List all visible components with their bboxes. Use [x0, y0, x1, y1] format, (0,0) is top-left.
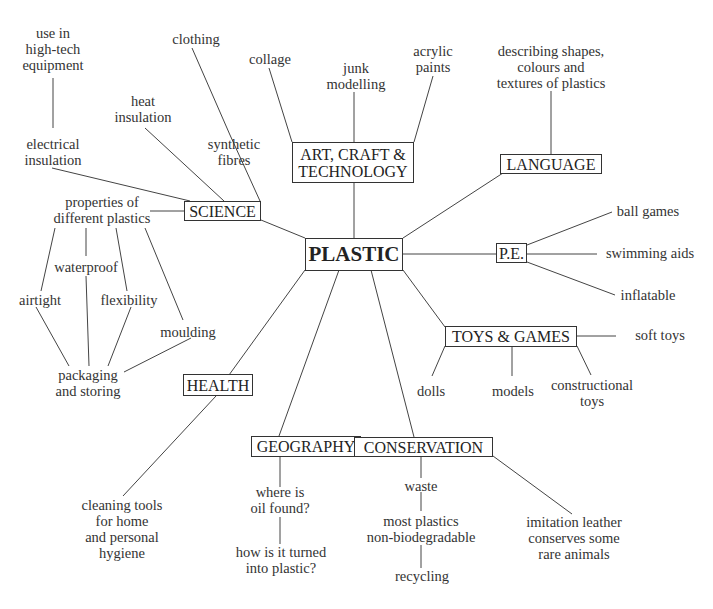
- leaf-line: properties of: [54, 194, 151, 210]
- leaf-line: constructional: [551, 377, 633, 393]
- topic-pe: P.E.: [496, 243, 527, 263]
- topic-geography: GEOGRAPHY: [251, 436, 361, 457]
- topic-health: HEALTH: [183, 374, 253, 396]
- leaf-line: colours and: [497, 59, 606, 75]
- leaf-soft-toys: soft toys: [635, 327, 685, 343]
- leaf-line: hygiene: [82, 545, 163, 561]
- leaf-line: and personal: [82, 529, 163, 545]
- leaf-line: collage: [249, 51, 291, 67]
- central-node-plastic: PLASTIC: [305, 238, 403, 271]
- leaf-line: flexibility: [100, 292, 157, 308]
- leaf-line: inflatable: [621, 287, 676, 303]
- topic-toys-games: TOYS & GAMES: [445, 326, 577, 347]
- leaf-line: for home: [82, 513, 163, 529]
- leaf-line: use in: [22, 25, 83, 41]
- leaf-line: oil found?: [250, 500, 309, 516]
- leaf-line: junk: [327, 60, 386, 76]
- leaf-line: moulding: [160, 324, 216, 340]
- topic-conservation: CONSERVATION: [354, 437, 493, 457]
- topic-label: P.E.: [499, 245, 524, 262]
- leaf-line: imitation leather: [526, 514, 621, 530]
- leaf-line: clothing: [172, 31, 220, 47]
- leaf-line: dolls: [417, 383, 445, 399]
- leaf-line: rare animals: [526, 546, 621, 562]
- leaf-waterproof: waterproof: [54, 259, 118, 275]
- leaf-line: soft toys: [635, 327, 685, 343]
- leaf-non-biodegradable: most plastics non-biodegradable: [367, 513, 476, 545]
- leaf-line: fibres: [208, 152, 260, 168]
- leaf-line: most plastics: [367, 513, 476, 529]
- leaf-line: where is: [250, 484, 309, 500]
- leaf-line: high-tech: [22, 41, 83, 57]
- leaf-line: different plastics: [54, 210, 151, 226]
- leaf-synthetic-fibres: synthetic fibres: [208, 136, 260, 168]
- leaf-line: how is it turned: [236, 544, 327, 560]
- leaf-line: textures of plastics: [497, 75, 606, 91]
- leaf-imitation-leather: imitation leather conserves some rare an…: [526, 514, 621, 562]
- topic-art-craft-technology: ART, CRAFT & TECHNOLOGY: [292, 142, 414, 183]
- leaf-line: toys: [551, 393, 633, 409]
- leaf-clothing: clothing: [172, 31, 220, 47]
- topic-label: GEOGRAPHY: [257, 438, 356, 455]
- leaf-line: ball games: [617, 203, 679, 219]
- leaf-constructional-toys: constructional toys: [551, 377, 633, 409]
- leaf-line: and storing: [56, 383, 121, 399]
- leaf-how-turned-into-plastic: how is it turned into plastic?: [236, 544, 327, 576]
- leaf-junk-modelling: junk modelling: [327, 60, 386, 92]
- topic-label: LANGUAGE: [507, 156, 596, 173]
- leaf-electrical-insulation: electrical insulation: [24, 136, 81, 168]
- leaf-inflatable: inflatable: [621, 287, 676, 303]
- leaf-line: swimming aids: [606, 245, 694, 261]
- leaf-line: electrical: [24, 136, 81, 152]
- leaf-describing-shapes: describing shapes, colours and textures …: [497, 43, 606, 91]
- leaf-cleaning-tools: cleaning tools for home and personal hyg…: [82, 497, 163, 561]
- leaf-where-is-oil-found: where is oil found?: [250, 484, 309, 516]
- leaf-line: synthetic: [208, 136, 260, 152]
- leaf-acrylic-paints: acrylic paints: [413, 43, 452, 75]
- leaf-line: paints: [413, 59, 452, 75]
- leaf-ball-games: ball games: [617, 203, 679, 219]
- leaf-use-in-high-tech: use in high-tech equipment: [22, 25, 83, 73]
- leaf-line: non-biodegradable: [367, 529, 476, 545]
- topic-label-line-1: ART, CRAFT &: [300, 146, 406, 163]
- topic-label: SCIENCE: [189, 203, 256, 220]
- leaf-models: models: [492, 383, 534, 399]
- leaf-line: packaging: [56, 367, 121, 383]
- leaf-recycling: recycling: [395, 568, 449, 584]
- topic-label: HEALTH: [187, 377, 250, 394]
- topic-language: LANGUAGE: [500, 154, 602, 174]
- leaf-airtight: airtight: [19, 292, 61, 308]
- leaf-line: insulation: [114, 109, 171, 125]
- leaf-collage: collage: [249, 51, 291, 67]
- leaf-line: into plastic?: [236, 560, 327, 576]
- leaf-line: equipment: [22, 57, 83, 73]
- leaf-packaging-and-storing: packaging and storing: [56, 367, 121, 399]
- topic-label: CONSERVATION: [364, 439, 483, 456]
- leaf-heat-insulation: heat insulation: [114, 93, 171, 125]
- leaf-line: conserves some: [526, 530, 621, 546]
- leaf-moulding: moulding: [160, 324, 216, 340]
- central-node-label: PLASTIC: [308, 246, 399, 263]
- leaf-swimming-aids: swimming aids: [606, 245, 694, 261]
- leaf-waste: waste: [404, 478, 437, 494]
- topic-label: TOYS & GAMES: [452, 328, 570, 345]
- leaf-line: airtight: [19, 292, 61, 308]
- leaf-line: modelling: [327, 76, 386, 92]
- leaf-line: models: [492, 383, 534, 399]
- leaf-line: waterproof: [54, 259, 118, 275]
- topic-science: SCIENCE: [184, 201, 261, 221]
- topic-label-line-2: TECHNOLOGY: [298, 163, 407, 180]
- leaf-line: describing shapes,: [497, 43, 606, 59]
- leaf-flexibility: flexibility: [100, 292, 157, 308]
- leaf-line: acrylic: [413, 43, 452, 59]
- leaf-dolls: dolls: [417, 383, 445, 399]
- leaf-line: heat: [114, 93, 171, 109]
- leaf-line: waste: [404, 478, 437, 494]
- leaf-properties-of-plastics: properties of different plastics: [54, 194, 151, 226]
- leaf-line: cleaning tools: [82, 497, 163, 513]
- leaf-line: recycling: [395, 568, 449, 584]
- leaf-line: insulation: [24, 152, 81, 168]
